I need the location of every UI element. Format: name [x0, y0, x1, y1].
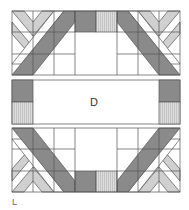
top-center-striped-square [96, 11, 117, 32]
middle-right-striped-square [159, 102, 180, 124]
middle-left-striped-square [12, 102, 33, 124]
corner-label: L [12, 197, 17, 207]
bottom-block [12, 128, 180, 192]
center-label: D [90, 96, 98, 108]
top-block [12, 11, 180, 75]
middle-right-dark-square [159, 80, 180, 102]
middle-left-dark-square [12, 80, 33, 102]
top-center-dark-square [75, 11, 96, 32]
